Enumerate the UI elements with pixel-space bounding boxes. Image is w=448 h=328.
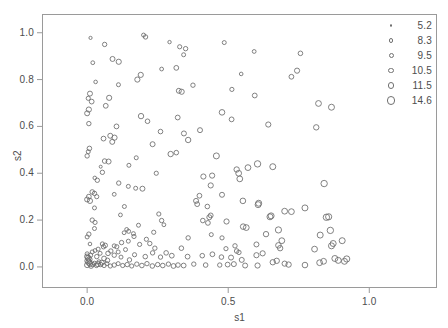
data-point bbox=[191, 83, 195, 87]
data-point bbox=[178, 45, 182, 49]
data-point bbox=[219, 110, 225, 116]
data-point bbox=[145, 261, 149, 265]
data-point bbox=[302, 205, 308, 211]
data-point bbox=[135, 77, 140, 82]
y-tick-label: 1.0 bbox=[2, 27, 34, 38]
data-point bbox=[302, 262, 308, 268]
data-point bbox=[197, 193, 202, 198]
data-point bbox=[132, 253, 136, 257]
data-point bbox=[158, 255, 162, 259]
data-point bbox=[122, 231, 126, 235]
y-axis-title: s2 bbox=[12, 150, 23, 161]
data-point bbox=[270, 164, 276, 170]
data-point bbox=[181, 263, 186, 268]
y-tick-label: 0.0 bbox=[2, 261, 34, 272]
data-point bbox=[110, 139, 115, 144]
legend-circle-icon bbox=[380, 38, 402, 42]
data-point bbox=[101, 136, 106, 141]
data-point bbox=[239, 72, 243, 76]
data-point bbox=[100, 170, 104, 174]
data-point bbox=[312, 246, 318, 252]
data-point bbox=[138, 113, 143, 118]
data-point bbox=[289, 74, 294, 79]
data-point bbox=[255, 263, 260, 268]
data-point bbox=[87, 91, 92, 96]
legend-entry: 11.5 bbox=[380, 78, 442, 93]
data-point bbox=[87, 121, 91, 125]
data-point bbox=[136, 223, 140, 227]
data-point bbox=[182, 53, 186, 57]
data-point bbox=[145, 119, 150, 124]
data-point bbox=[158, 129, 163, 134]
y-tick-label: 0.4 bbox=[2, 167, 34, 178]
data-point bbox=[93, 220, 97, 224]
data-point bbox=[140, 263, 145, 268]
data-point bbox=[220, 236, 224, 240]
data-point bbox=[179, 246, 184, 251]
data-point bbox=[298, 51, 303, 56]
data-point bbox=[201, 174, 206, 179]
data-point bbox=[112, 192, 116, 196]
data-point bbox=[94, 80, 98, 84]
data-point bbox=[201, 218, 206, 223]
data-point bbox=[102, 42, 106, 46]
data-point bbox=[126, 184, 130, 188]
data-point bbox=[224, 219, 229, 224]
data-point bbox=[90, 218, 94, 222]
data-point bbox=[317, 260, 323, 266]
data-point bbox=[88, 242, 92, 246]
data-point bbox=[153, 246, 157, 250]
data-point bbox=[152, 230, 156, 234]
data-point bbox=[98, 251, 102, 255]
legend-entry: 8.3 bbox=[380, 33, 442, 48]
data-point bbox=[282, 208, 288, 214]
legend-circle-icon bbox=[380, 82, 402, 89]
y-tick-label: 0.6 bbox=[2, 120, 34, 131]
legend-circle-icon bbox=[380, 24, 402, 27]
data-point bbox=[144, 237, 148, 241]
data-point bbox=[85, 154, 89, 158]
data-point bbox=[154, 171, 158, 175]
data-point bbox=[124, 248, 128, 252]
data-point bbox=[195, 202, 200, 207]
data-point bbox=[260, 251, 265, 256]
data-point bbox=[127, 258, 131, 262]
data-point bbox=[222, 41, 226, 45]
data-point bbox=[213, 153, 219, 159]
data-point bbox=[176, 263, 181, 268]
legend-label: 9.5 bbox=[402, 50, 432, 61]
data-point bbox=[95, 178, 99, 182]
data-point bbox=[186, 236, 190, 240]
data-point bbox=[143, 254, 148, 259]
data-point bbox=[91, 61, 95, 65]
legend-entry: 5.2 bbox=[380, 18, 442, 33]
data-point bbox=[209, 233, 213, 237]
data-point bbox=[224, 247, 228, 251]
data-point bbox=[92, 227, 96, 231]
data-point bbox=[185, 137, 190, 142]
data-point bbox=[116, 83, 120, 87]
data-point bbox=[114, 124, 119, 129]
data-point bbox=[131, 232, 135, 236]
data-point bbox=[185, 254, 190, 259]
data-point bbox=[122, 205, 126, 209]
legend-label: 10.5 bbox=[402, 65, 432, 76]
data-point bbox=[164, 251, 169, 256]
data-point bbox=[134, 186, 138, 190]
data-point bbox=[119, 213, 123, 217]
data-point bbox=[89, 36, 92, 39]
data-point bbox=[174, 150, 179, 155]
data-point bbox=[254, 161, 260, 167]
data-point bbox=[254, 242, 259, 247]
data-point bbox=[168, 40, 171, 43]
data-point bbox=[317, 232, 323, 238]
data-point bbox=[252, 50, 256, 54]
data-point bbox=[183, 46, 187, 50]
data-point bbox=[155, 262, 159, 266]
data-point bbox=[254, 253, 259, 258]
data-point bbox=[116, 250, 120, 254]
data-point bbox=[160, 67, 164, 71]
data-point bbox=[266, 122, 271, 127]
data-point bbox=[107, 95, 112, 100]
data-point bbox=[159, 218, 163, 222]
